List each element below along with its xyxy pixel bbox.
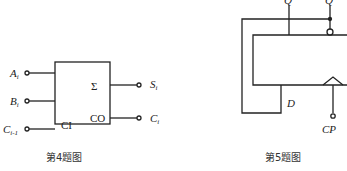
feedback-wire xyxy=(242,19,330,113)
co-label: CO xyxy=(90,112,105,124)
input-a-label: Ai xyxy=(9,67,19,81)
circuit-diagrams: Ai Bi Ci-1 Si Ci Σ CI CO 第4题图 Q Q D CP 第… xyxy=(0,0,347,171)
qbar-label: Q xyxy=(325,0,333,6)
sum-symbol: Σ xyxy=(91,80,97,92)
input-a-terminal xyxy=(25,71,29,75)
input-b-label: Bi xyxy=(10,95,19,109)
figure-4-caption: 第4题图 xyxy=(46,151,82,163)
input-c-terminal xyxy=(25,127,29,131)
ci-label: CI xyxy=(61,119,72,131)
input-c-label: Ci-1 xyxy=(3,123,18,137)
d-label: D xyxy=(286,97,295,109)
qbar-inversion-bubble xyxy=(327,29,333,35)
figure-4-full-adder xyxy=(25,62,141,131)
cp-label: CP xyxy=(322,123,336,135)
output-s-label: Si xyxy=(150,78,158,92)
output-c-terminal xyxy=(137,116,141,120)
cp-terminal xyxy=(331,114,335,118)
input-b-terminal xyxy=(25,99,29,103)
output-c-label: Ci xyxy=(150,112,159,126)
q-label: Q xyxy=(284,0,292,6)
figure-5-caption: 第5题图 xyxy=(265,151,301,163)
clock-triangle xyxy=(323,77,343,85)
output-s-terminal xyxy=(137,83,141,87)
